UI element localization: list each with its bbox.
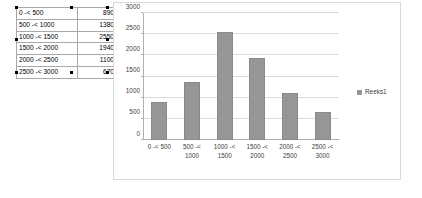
table-row[interactable]: 1500 -< 2000 1940 xyxy=(17,43,117,55)
cell-frequency[interactable]: 1380 xyxy=(78,19,117,31)
cell-bin[interactable]: 500 -< 1000 xyxy=(17,19,78,31)
x-axis-tick-label: 2500 -< 3000 xyxy=(308,143,338,160)
table-row[interactable]: 2500 -< 3000 670 xyxy=(17,66,117,78)
bar[interactable] xyxy=(282,93,298,140)
bar[interactable] xyxy=(315,112,331,140)
legend-entry-label: Reeks1 xyxy=(365,89,387,95)
y-axis-tick-label: 0 xyxy=(136,130,140,136)
table-row[interactable]: 2000 -< 2500 1100 xyxy=(17,55,117,67)
x-label-line1: 1500 -< xyxy=(242,143,272,152)
x-label-line1: 0 -< 500 xyxy=(144,143,174,152)
x-label-line1: 1000 -< xyxy=(210,143,240,152)
legend-swatch-icon xyxy=(357,90,362,95)
selection-handle-middle-right[interactable] xyxy=(106,38,109,41)
y-axis-tick-label: 1000 xyxy=(126,88,140,94)
chart-legend[interactable]: Reeks1 xyxy=(357,89,387,95)
x-axis-tick-label: 1500 -< 2000 xyxy=(242,143,272,160)
selection-handle-bottom-right[interactable] xyxy=(106,71,109,74)
bar[interactable] xyxy=(249,58,265,140)
x-axis-labels: 0 -< 500 500 -< 1000 1000 -< 1500 1500 -… xyxy=(143,143,339,160)
selection-handle-middle-left[interactable] xyxy=(15,38,18,41)
y-axis-tick-label: 3000 xyxy=(126,3,140,9)
bar[interactable] xyxy=(217,32,233,140)
selection-handle-top-left[interactable] xyxy=(15,6,18,9)
cell-frequency[interactable]: 1940 xyxy=(78,43,117,55)
table-row[interactable]: 1000 -< 1500 2550 xyxy=(17,31,117,43)
y-axis-tick-label: 2500 xyxy=(126,25,140,31)
spreadsheet-region: 0 -< 500 890 500 -< 1000 1380 1000 -< 15… xyxy=(0,0,112,198)
x-axis-tick-label: 2000 -< 2500 xyxy=(275,143,305,160)
x-label-line2: 1000 xyxy=(177,152,207,161)
cell-frequency[interactable]: 890 xyxy=(78,8,117,20)
x-label-line2: 2000 xyxy=(242,152,272,161)
table-row[interactable]: 500 -< 1000 1380 xyxy=(17,19,117,31)
frequency-table[interactable]: 0 -< 500 890 500 -< 1000 1380 1000 -< 15… xyxy=(16,7,117,79)
y-axis-tick-label: 500 xyxy=(129,109,140,115)
x-label-line2: 3000 xyxy=(308,152,338,161)
selection-handle-top-right[interactable] xyxy=(106,6,109,9)
selection-handle-bottom-center[interactable] xyxy=(70,71,73,74)
cell-bin[interactable]: 1500 -< 2000 xyxy=(17,43,78,55)
selection-handle-bottom-left[interactable] xyxy=(15,71,18,74)
table-row[interactable]: 0 -< 500 890 xyxy=(17,8,117,20)
cell-frequency[interactable]: 670 xyxy=(78,66,117,78)
cell-bin[interactable]: 0 -< 500 xyxy=(17,8,78,20)
bar-chart-object[interactable]: 0 500 1000 1500 2000 2500 3000 0 -< 500 xyxy=(113,2,401,180)
x-label-line1: 2000 -< xyxy=(275,143,305,152)
x-axis-tick-label: 0 -< 500 xyxy=(144,143,174,160)
y-axis-tick-label: 1500 xyxy=(126,67,140,73)
x-label-line2: 2500 xyxy=(275,152,305,161)
y-axis-tick-label: 2000 xyxy=(126,46,140,52)
cell-bin[interactable]: 2000 -< 2500 xyxy=(17,55,78,67)
x-label-line1: 2500 -< xyxy=(308,143,338,152)
bars-layer xyxy=(143,13,339,140)
x-axis-tick-label: 1000 -< 1500 xyxy=(210,143,240,160)
selection-handle-top-center[interactable] xyxy=(70,6,73,9)
cell-frequency[interactable]: 2550 xyxy=(78,31,117,43)
x-label-line1: 500 -< xyxy=(177,143,207,152)
x-label-line2: 1500 xyxy=(210,152,240,161)
cell-frequency[interactable]: 1100 xyxy=(78,55,117,67)
bar[interactable] xyxy=(151,102,167,140)
plot-area: 0 500 1000 1500 2000 2500 3000 xyxy=(143,13,339,140)
bar[interactable] xyxy=(184,82,200,140)
cell-bin[interactable]: 1000 -< 1500 xyxy=(17,31,78,43)
cell-bin[interactable]: 2500 -< 3000 xyxy=(17,66,78,78)
x-axis-tick-label: 500 -< 1000 xyxy=(177,143,207,160)
table-body: 0 -< 500 890 500 -< 1000 1380 1000 -< 15… xyxy=(17,8,117,79)
